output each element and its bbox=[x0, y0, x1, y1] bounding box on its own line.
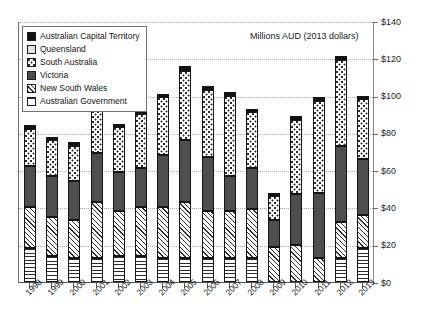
bar-segment bbox=[357, 96, 369, 100]
bar-segment bbox=[202, 86, 214, 90]
legend-item-label: Australian Capital Territory bbox=[40, 32, 140, 41]
bar-segment bbox=[157, 155, 169, 207]
legend-item-label: New South Wales bbox=[40, 84, 107, 93]
bar-segment bbox=[246, 109, 258, 113]
bar-segment bbox=[68, 146, 80, 181]
bar-segment bbox=[357, 248, 369, 282]
bar-segment bbox=[335, 222, 347, 257]
chart-title: Millions AUD (2013 dollars) bbox=[250, 31, 359, 41]
bar-segment bbox=[224, 96, 236, 176]
bar-segment bbox=[224, 176, 236, 211]
legend-swatch-icon bbox=[27, 71, 36, 80]
bar-segment bbox=[224, 211, 236, 258]
bar-segment bbox=[357, 99, 369, 159]
bar-segment bbox=[290, 245, 302, 282]
y-axis-tick-mark bbox=[373, 208, 378, 209]
bar-segment bbox=[157, 97, 169, 155]
bar-2004 bbox=[157, 21, 169, 282]
y-axis-tick-label: $40 bbox=[381, 204, 396, 213]
bar-segment bbox=[202, 157, 214, 211]
bar-segment bbox=[202, 211, 214, 258]
bar-segment bbox=[335, 146, 347, 222]
legend-swatch-icon bbox=[27, 84, 36, 93]
bar-segment bbox=[268, 193, 280, 197]
y-axis-tick-mark bbox=[373, 97, 378, 98]
bar-segment bbox=[68, 220, 80, 257]
bar-segment bbox=[135, 168, 147, 207]
y-axis-tick-mark bbox=[373, 59, 378, 60]
y-axis-tick-mark bbox=[373, 134, 378, 135]
legend-item-1: Queensland bbox=[27, 43, 142, 56]
y-axis-tick-label: $20 bbox=[381, 241, 396, 250]
y-axis-tick-label: $80 bbox=[381, 129, 396, 138]
bar-segment bbox=[113, 127, 125, 172]
legend-item-5: Australian Government bbox=[27, 95, 142, 108]
bar-segment bbox=[290, 116, 302, 120]
chart-legend: Australian Capital TerritoryQueenslandSo… bbox=[22, 26, 147, 112]
y-axis-tick-label: $140 bbox=[381, 18, 401, 27]
bar-segment bbox=[135, 114, 147, 168]
y-axis-tick-label: $60 bbox=[381, 167, 396, 176]
bar-segment bbox=[46, 176, 58, 217]
bar-segment bbox=[46, 137, 58, 141]
legend-item-2: South Australia bbox=[27, 56, 142, 69]
legend-swatch-icon bbox=[27, 45, 36, 54]
bar-segment bbox=[335, 60, 347, 146]
bar-segment bbox=[24, 125, 36, 129]
bar-segment bbox=[68, 181, 80, 220]
bar-segment bbox=[313, 193, 325, 258]
legend-item-3: Victoria bbox=[27, 69, 142, 82]
bar-segment bbox=[91, 153, 103, 201]
bar-2010 bbox=[290, 21, 302, 282]
bar-segment bbox=[179, 202, 191, 258]
bar-segment bbox=[113, 172, 125, 211]
bar-segment bbox=[91, 202, 103, 258]
bar-2009 bbox=[268, 21, 280, 282]
y-axis-tick-mark bbox=[373, 246, 378, 247]
bar-2007 bbox=[224, 21, 236, 282]
legend-item-0: Australian Capital Territory bbox=[27, 30, 142, 43]
legend-swatch-icon bbox=[27, 58, 36, 67]
y-axis-tick-label: $120 bbox=[381, 55, 401, 64]
bar-segment bbox=[179, 140, 191, 202]
bar-segment bbox=[24, 248, 36, 282]
bar-segment bbox=[246, 168, 258, 209]
bar-segment bbox=[46, 140, 58, 175]
bar-2011 bbox=[313, 21, 325, 282]
bar-segment bbox=[357, 159, 369, 215]
bar-segment bbox=[268, 247, 280, 282]
bar-segment bbox=[113, 211, 125, 256]
legend-swatch-icon bbox=[27, 97, 36, 106]
bar-segment bbox=[246, 112, 258, 168]
bar-segment bbox=[290, 194, 302, 244]
bar-segment bbox=[179, 66, 191, 72]
bar-segment bbox=[202, 90, 214, 157]
bar-segment bbox=[313, 97, 325, 101]
y-axis-tick-mark bbox=[373, 22, 378, 23]
y-axis-tick-label: $100 bbox=[381, 92, 401, 101]
y-axis-tick-label: $0 bbox=[381, 279, 391, 288]
bar-segment bbox=[268, 196, 280, 220]
legend-item-4: New South Wales bbox=[27, 82, 142, 95]
bar-segment bbox=[335, 56, 347, 60]
bar-segment bbox=[24, 166, 36, 207]
bar-segment bbox=[246, 209, 258, 257]
bar-segment bbox=[313, 101, 325, 192]
bar-segment bbox=[290, 120, 302, 195]
bar-segment bbox=[224, 92, 236, 96]
legend-item-label: Queensland bbox=[40, 45, 86, 54]
bar-segment bbox=[357, 215, 369, 249]
y-axis-spine bbox=[373, 22, 374, 284]
legend-swatch-icon bbox=[27, 32, 36, 41]
bar-segment bbox=[91, 110, 103, 153]
bar-segment bbox=[113, 124, 125, 128]
y-axis-tick-mark bbox=[373, 171, 378, 172]
bar-segment bbox=[135, 207, 147, 255]
bar-segment bbox=[24, 129, 36, 166]
stacked-bar-chart: $0$20$40$60$80$100$120$140 1998199920002… bbox=[0, 0, 423, 327]
legend-item-label: South Australia bbox=[40, 58, 97, 67]
bar-segment bbox=[157, 94, 169, 98]
bar-2012 bbox=[335, 21, 347, 282]
bar-segment bbox=[24, 207, 36, 248]
bar-2013 bbox=[357, 21, 369, 282]
